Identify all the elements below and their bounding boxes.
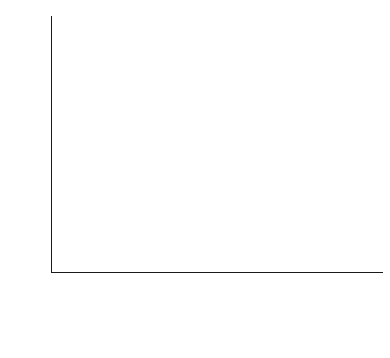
- stacked-bar-chart: [0, 0, 390, 358]
- cut-off-footer-text: [104, 347, 384, 354]
- chart-legend: [0, 0, 390, 358]
